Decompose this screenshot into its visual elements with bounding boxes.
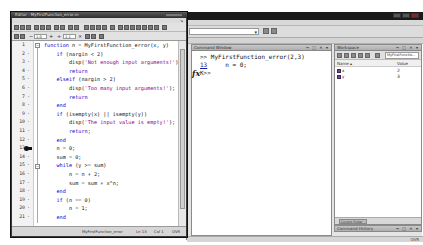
workspace-row[interactable]: y 3 [335, 74, 421, 80]
breakpoint-slot[interactable]: - [27, 93, 30, 102]
set-breakpoint-icon[interactable] [110, 25, 115, 30]
maximize-button[interactable] [402, 13, 410, 18]
breakpoint-slot[interactable]: - [27, 136, 30, 145]
breakpoint-slot[interactable]: - [27, 153, 30, 162]
code-line[interactable]: if (nargin < 2) [44, 50, 103, 59]
code-line[interactable]: sum = 0; [44, 153, 81, 162]
command-history-header[interactable]: Command History → □ ✕ ▾ [334, 225, 422, 232]
code-line[interactable]: end [44, 213, 66, 222]
line-number[interactable]: 17 [13, 179, 25, 188]
exit-debug-icon[interactable] [148, 25, 153, 30]
line-number[interactable]: 16 [13, 170, 25, 179]
import-data-icon[interactable] [351, 53, 356, 58]
breakpoint-slot[interactable]: - [27, 118, 30, 127]
cell-eval-advance-icon[interactable] [85, 34, 90, 39]
line-number[interactable]: 7 [13, 93, 25, 102]
save-icon[interactable] [26, 25, 31, 30]
step-out-icon[interactable] [136, 25, 141, 30]
code-line[interactable]: sum = sum + x^n; [44, 179, 119, 188]
code-line[interactable]: disp('Not enough input arguments!') [44, 58, 178, 67]
plot-icon[interactable] [375, 53, 380, 58]
dock-icon[interactable] [162, 25, 167, 30]
breakpoint-slot[interactable]: - [27, 161, 30, 170]
breakpoint-slot[interactable]: - [27, 101, 30, 110]
breakpoint-slot[interactable]: - [27, 50, 30, 59]
open-variable-icon[interactable] [344, 53, 349, 58]
new-file-icon[interactable] [14, 25, 19, 30]
line-number[interactable]: 19 [13, 196, 25, 205]
minimize-button[interactable] [393, 13, 401, 18]
code-line[interactable]: end [44, 187, 66, 196]
breakpoint-slot[interactable]: - [27, 179, 30, 188]
clear-breakpoints-icon[interactable] [118, 25, 123, 30]
command-prompt-line[interactable]: K>> [200, 69, 211, 77]
code-line[interactable]: while (y >= sum) [44, 161, 106, 170]
line-number[interactable]: 5 [13, 75, 25, 84]
redo-icon[interactable] [60, 25, 65, 30]
code-line[interactable]: return [44, 67, 88, 76]
publish-icon[interactable] [99, 34, 104, 39]
panel-controls[interactable]: → □ ✕ ▾ [306, 45, 329, 51]
code-line[interactable]: function n = MyFirstFunction_error(x, y) [44, 41, 169, 50]
save-workspace-icon[interactable] [358, 53, 363, 58]
increment-value-field[interactable]: 1.0 [34, 34, 47, 39]
line-number[interactable]: 2 [13, 50, 25, 59]
close-button[interactable] [411, 13, 419, 18]
line-number[interactable]: 4 [13, 67, 25, 76]
panel-controls[interactable]: → □ ✕ ▾ [396, 226, 419, 232]
breakpoint-slot[interactable]: - [27, 75, 30, 84]
browse-folder-icon[interactable] [263, 28, 269, 34]
multiply-value-field[interactable]: 1.1 [63, 34, 76, 39]
breakpoint-slot[interactable]: - [27, 204, 30, 213]
forward-icon[interactable] [90, 25, 95, 30]
go-to-icon[interactable] [96, 25, 101, 30]
current-folder-combo[interactable]: ▾ [189, 28, 259, 35]
line-number[interactable]: 8 [13, 101, 25, 110]
breakpoint-slot[interactable]: - [27, 187, 30, 196]
code-line[interactable]: elseif (nargin > 2) [44, 75, 116, 84]
line-number[interactable]: 21 [13, 213, 25, 222]
breakpoint-slot[interactable]: - [27, 110, 30, 119]
breakpoint-slot[interactable]: - [27, 170, 30, 179]
open-file-icon[interactable] [20, 25, 25, 30]
eval-cell-icon[interactable] [20, 34, 25, 39]
line-number[interactable]: 20 [13, 204, 25, 213]
scrollbar-thumb[interactable] [180, 49, 185, 209]
line-number[interactable]: 3 [13, 58, 25, 67]
increment-button[interactable]: + [49, 33, 53, 40]
line-number[interactable]: 12 [13, 136, 25, 145]
code-line[interactable]: if (n == 0) [44, 196, 91, 205]
copy-icon[interactable] [40, 25, 45, 30]
breakpoint-slot[interactable]: - [27, 58, 30, 67]
code-line[interactable]: return [44, 93, 88, 102]
divide-button[interactable]: ÷ [57, 33, 61, 40]
breakpoint-slot[interactable]: - [27, 213, 30, 222]
line-number[interactable]: 11 [13, 127, 25, 136]
code-line[interactable]: n = 0; [44, 144, 75, 153]
stack-selector[interactable]: MyFirstFunctio... [385, 52, 419, 59]
line-number[interactable]: 15 [13, 161, 25, 170]
code-line[interactable]: end [44, 101, 66, 110]
line-number[interactable]: 6 [13, 84, 25, 93]
cell-eval-icon[interactable] [91, 34, 96, 39]
decrement-button[interactable]: − [29, 33, 33, 40]
code-line[interactable]: end [44, 136, 66, 145]
editor-body[interactable]: − − 1function n = MyFirstFunction_error(… [12, 41, 186, 226]
line-number[interactable]: 9 [13, 110, 25, 119]
fold-toggle-icon[interactable]: − [35, 164, 40, 169]
breakpoint-slot[interactable]: - [27, 84, 30, 93]
continue-icon[interactable] [142, 25, 147, 30]
new-variable-icon[interactable] [337, 53, 342, 58]
breakpoint-slot[interactable]: - [27, 196, 30, 205]
print-icon[interactable] [365, 53, 370, 58]
vertical-scrollbar[interactable] [178, 41, 186, 226]
column-value[interactable]: Value [397, 60, 408, 67]
stack-icon[interactable] [154, 25, 159, 30]
up-folder-icon[interactable] [271, 28, 277, 34]
back-icon[interactable] [84, 25, 89, 30]
code-line[interactable]: disp('Too many input arguments!'); [44, 84, 175, 93]
line-number[interactable]: 14 [13, 153, 25, 162]
step-icon[interactable] [124, 25, 129, 30]
paste-icon[interactable] [46, 25, 51, 30]
line-number[interactable]: 10 [13, 118, 25, 127]
